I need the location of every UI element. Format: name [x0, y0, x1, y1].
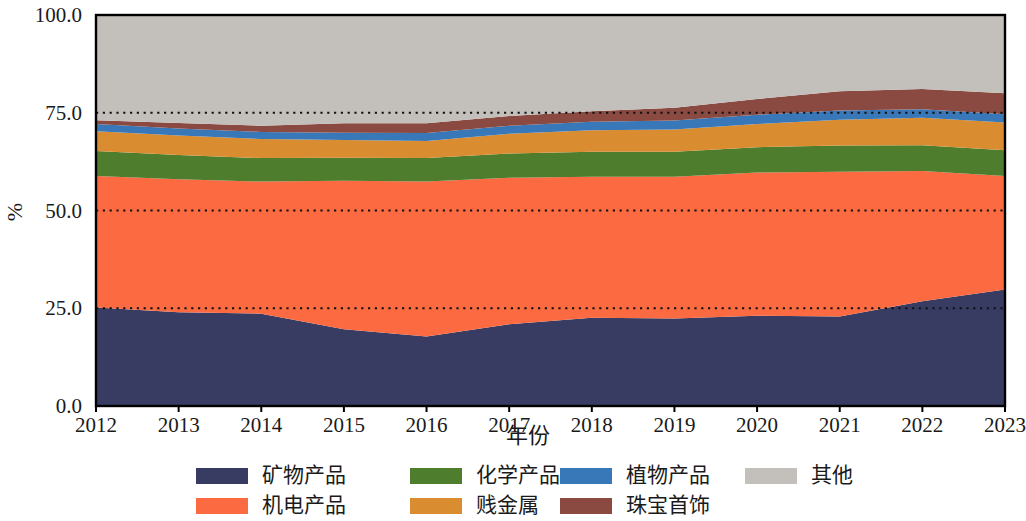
legend-label-0: 矿物产品 — [262, 463, 346, 486]
y-tick-label: 50.0 — [45, 199, 82, 223]
x-tick-label: 2022 — [901, 413, 943, 437]
legend-swatch-4 — [196, 498, 248, 514]
chart-figure: 0.025.050.075.0100.0 2012201320142015201… — [0, 0, 1026, 521]
stacked-area-chart: 0.025.050.075.0100.0 2012201320142015201… — [0, 0, 1026, 521]
legend-label-6: 珠宝首饰 — [626, 493, 710, 516]
x-tick-label: 2019 — [653, 413, 695, 437]
x-tick-label: 2015 — [323, 413, 365, 437]
x-tick-label: 2020 — [736, 413, 778, 437]
legend-swatch-1 — [410, 468, 462, 484]
y-tick-label: 25.0 — [45, 296, 82, 320]
x-tick-label: 2012 — [75, 413, 117, 437]
legend-label-1: 化学产品 — [476, 463, 560, 486]
legend-label-2: 植物产品 — [626, 463, 710, 486]
legend-swatch-5 — [410, 498, 462, 514]
y-tick-label: 100.0 — [35, 3, 82, 27]
legend-swatch-0 — [196, 468, 248, 484]
x-tick-label: 2018 — [571, 413, 613, 437]
y-axis-title: % — [2, 203, 27, 221]
y-tick-label: 75.0 — [45, 101, 82, 125]
legend-swatch-2 — [560, 468, 612, 484]
x-tick-label: 2021 — [819, 413, 861, 437]
legend-swatch-6 — [560, 498, 612, 514]
x-tick-label: 2023 — [984, 413, 1026, 437]
x-tick-label: 2016 — [406, 413, 448, 437]
y-axis-ticks: 0.025.050.075.0100.0 — [35, 3, 82, 418]
x-axis-ticks: 2012201320142015201620172018201920202021… — [75, 406, 1026, 437]
x-tick-label: 2013 — [158, 413, 200, 437]
legend-label-5: 贱金属 — [476, 493, 539, 516]
legend-label-3: 其他 — [811, 463, 853, 486]
x-tick-label: 2014 — [240, 413, 283, 437]
x-axis-title: 年份 — [506, 423, 550, 448]
legend-label-4: 机电产品 — [262, 493, 346, 516]
legend-swatch-3 — [745, 468, 797, 484]
chart-legend: 矿物产品化学产品植物产品其他机电产品贱金属珠宝首饰 — [196, 463, 853, 516]
